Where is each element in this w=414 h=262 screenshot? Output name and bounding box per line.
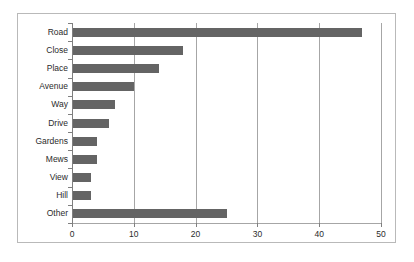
bar-row <box>72 46 381 55</box>
category-label-place: Place <box>20 64 68 73</box>
value-tick-label-10: 10 <box>129 229 138 239</box>
category-axis-labels: RoadClosePlaceAvenueWayDriveGardensMewsV… <box>18 23 68 223</box>
value-tick-0 <box>72 223 73 227</box>
bar-row <box>72 119 381 128</box>
value-tick-40 <box>319 223 320 227</box>
category-label-mews: Mews <box>20 155 68 164</box>
category-label-other: Other <box>20 209 68 218</box>
bar-avenue <box>72 82 134 91</box>
gridline-50 <box>381 23 382 223</box>
bar-row <box>72 82 381 91</box>
plot-area <box>72 23 381 223</box>
category-tick <box>68 132 72 133</box>
value-tick-50 <box>381 223 382 227</box>
bar-hill <box>72 191 91 200</box>
category-label-avenue: Avenue <box>20 82 68 91</box>
bar-view <box>72 173 91 182</box>
category-tick <box>68 205 72 206</box>
category-label-gardens: Gardens <box>20 137 68 146</box>
category-label-close: Close <box>20 46 68 55</box>
bar-row <box>72 191 381 200</box>
category-label-way: Way <box>20 100 68 109</box>
bar-row <box>72 173 381 182</box>
value-tick-20 <box>196 223 197 227</box>
category-label-drive: Drive <box>20 119 68 128</box>
bar-chart-figure: RoadClosePlaceAvenueWayDriveGardensMewsV… <box>17 13 396 243</box>
category-tick <box>68 59 72 60</box>
category-tick <box>68 41 72 42</box>
value-tick-label-0: 0 <box>70 229 75 239</box>
bar-row <box>72 155 381 164</box>
category-axis-line <box>72 23 73 223</box>
value-tick-label-50: 50 <box>376 229 385 239</box>
bar-way <box>72 100 115 109</box>
bar-close <box>72 46 183 55</box>
category-label-road: Road <box>20 28 68 37</box>
category-tick <box>68 78 72 79</box>
category-tick <box>68 23 72 24</box>
category-tick <box>68 150 72 151</box>
value-tick-10 <box>134 223 135 227</box>
bar-row <box>72 100 381 109</box>
bar-place <box>72 64 159 73</box>
bar-drive <box>72 119 109 128</box>
bar-row <box>72 28 381 37</box>
bar-mews <box>72 155 97 164</box>
category-label-hill: Hill <box>20 191 68 200</box>
category-tick <box>68 168 72 169</box>
value-axis-line <box>72 223 381 224</box>
bar-row <box>72 209 381 218</box>
category-tick <box>68 114 72 115</box>
bar-other <box>72 209 227 218</box>
bar-row <box>72 64 381 73</box>
value-tick-label-20: 20 <box>191 229 200 239</box>
category-label-view: View <box>20 173 68 182</box>
category-tick <box>68 96 72 97</box>
value-tick-label-30: 30 <box>253 229 262 239</box>
value-tick-30 <box>257 223 258 227</box>
category-tick <box>68 187 72 188</box>
bar-road <box>72 28 362 37</box>
bar-gardens <box>72 137 97 146</box>
bar-row <box>72 137 381 146</box>
value-tick-label-40: 40 <box>314 229 323 239</box>
